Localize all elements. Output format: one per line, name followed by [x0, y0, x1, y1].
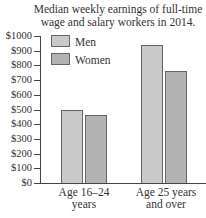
bar-men-age-25-plus — [141, 45, 163, 183]
chart-title-line-1: Median weekly earnings of full-time — [30, 3, 206, 16]
y-tick-label: $600 — [11, 90, 32, 100]
x-category-label-line: Age 25 years — [128, 186, 204, 198]
legend-label-women: Women — [75, 54, 110, 66]
x-axis — [40, 183, 206, 184]
legend-label-men: Men — [75, 36, 96, 48]
y-tick — [34, 110, 40, 111]
y-tick — [34, 154, 40, 155]
y-tick — [34, 80, 40, 81]
y-tick-label: $100 — [11, 163, 32, 173]
y-tick — [34, 36, 40, 37]
y-axis — [40, 36, 41, 184]
bar-men-age-16-24 — [61, 110, 83, 184]
x-category-label-line: and over — [128, 198, 204, 210]
x-category-label-age-16-24: Age 16–24 years — [52, 186, 116, 210]
y-tick — [34, 124, 40, 125]
legend-swatch-men — [51, 35, 70, 47]
y-tick-label: $300 — [11, 134, 32, 144]
y-tick-label: $700 — [11, 75, 32, 85]
y-tick-label: $900 — [11, 46, 32, 56]
y-tick — [34, 65, 40, 66]
y-tick — [34, 183, 40, 184]
y-tick-label: $200 — [11, 149, 32, 159]
y-tick — [34, 168, 40, 169]
x-category-label-line: years — [52, 198, 116, 210]
bar-women-age-16-24 — [85, 115, 107, 183]
x-category-label-line: Age 16–24 — [52, 186, 116, 198]
legend-swatch-women — [51, 53, 70, 65]
y-tick-label: $800 — [11, 60, 32, 70]
y-tick-label: $0 — [22, 178, 33, 188]
y-tick-label: $1000 — [6, 31, 32, 41]
chart-title: Median weekly earnings of full-time wage… — [30, 3, 206, 29]
y-tick-label: $500 — [11, 105, 32, 115]
y-tick-label: $400 — [11, 119, 32, 129]
y-tick — [34, 51, 40, 52]
chart-title-line-2: wage and salary workers in 2014. — [30, 16, 206, 29]
y-tick — [34, 95, 40, 96]
x-category-label-age-25-plus: Age 25 years and over — [128, 186, 204, 210]
bar-women-age-25-plus — [165, 71, 187, 183]
y-tick — [34, 139, 40, 140]
